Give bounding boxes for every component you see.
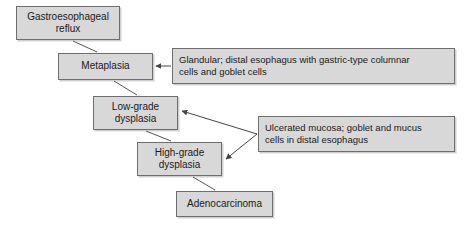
- node-adenocarcinoma[interactable]: Adenocarcinoma: [176, 191, 273, 217]
- node-gastroesophageal-reflux[interactable]: Gastroesophageal reflux: [16, 6, 120, 40]
- annotation-glandular-metaplasia[interactable]: Glandular; distal esophagus with gastric…: [172, 48, 455, 84]
- annotation-label: Ulcerated mucosa; goblet and mucus cells…: [259, 122, 428, 147]
- annotation-ulcerated-mucosa[interactable]: Ulcerated mucosa; goblet and mucus cells…: [258, 116, 455, 152]
- connector-ulcerated-highgrade: [226, 134, 257, 159]
- connector-lowgrade-highgrade: [146, 131, 171, 141]
- connector-metaplasia-lowgrade: [114, 81, 137, 95]
- node-label: Metaplasia: [77, 60, 133, 73]
- node-metaplasia[interactable]: Metaplasia: [58, 53, 153, 80]
- node-high-grade-dysplasia[interactable]: High-grade dysplasia: [137, 142, 222, 176]
- node-label: Gastroesophageal reflux: [23, 11, 113, 36]
- node-label: High-grade dysplasia: [151, 147, 208, 172]
- connector-highgrade-adenocarcinoma: [193, 177, 215, 190]
- diagram-figure: Gastroesophageal reflux Metaplasia Low-g…: [0, 0, 469, 229]
- node-label: Low-grade dysplasia: [108, 101, 163, 126]
- connector-ulcerated-lowgrade: [182, 111, 257, 134]
- annotation-label: Glandular; distal esophagus with gastric…: [173, 54, 416, 79]
- node-label: Adenocarcinoma: [183, 198, 266, 211]
- node-low-grade-dysplasia[interactable]: Low-grade dysplasia: [93, 96, 178, 130]
- connector-reflux-metaplasia: [73, 41, 97, 52]
